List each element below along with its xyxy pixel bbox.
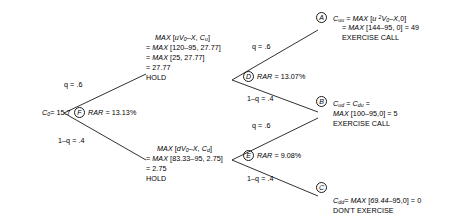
node-d-rar-value: = 13.07%	[274, 72, 305, 81]
upper-mid-line4: = 27.77	[146, 63, 171, 72]
node-c[interactable]: C	[316, 182, 327, 193]
root-rar-value: = 13.13%	[105, 108, 136, 117]
prob-root-up: q = .6	[64, 80, 82, 89]
prob-lower-down: 1–q = .4	[247, 174, 274, 183]
terminal-b-line2: MAX [100–95,0] = 5	[333, 109, 398, 118]
upper-mid-line3: = MAX [25, 27.77]	[146, 53, 205, 62]
lower-mid-line4: HOLD	[146, 174, 166, 183]
upper-mid-line5: HOLD	[146, 73, 166, 82]
node-e[interactable]: E	[243, 150, 254, 161]
node-d[interactable]: D	[243, 71, 254, 82]
root-rar-label: RAR	[88, 108, 103, 117]
edge-lower-down	[232, 160, 318, 196]
node-b[interactable]: B	[316, 96, 327, 107]
root-rar: RAR = 13.13%	[88, 108, 136, 117]
terminal-a-line2: = MAX [144–95, 0] = 49	[342, 23, 419, 32]
node-f[interactable]: F	[74, 107, 85, 118]
edge-upper-down	[232, 80, 318, 112]
prob-upper-down: 1–q = .4	[247, 94, 274, 103]
lower-mid-line2: = MAX [83.33–95, 2.75]	[146, 154, 223, 163]
terminal-a-line3: EXERCISE CALL	[342, 33, 399, 42]
lower-mid-line3: = 2.75	[146, 164, 166, 173]
binomial-tree-diagram: C0= 15.7 F RAR = 13.13% q = .6 1–q = .4 …	[0, 0, 454, 223]
node-d-rar-label: RAR	[257, 72, 272, 81]
node-e-rar-value: = 9.08%	[274, 151, 301, 160]
prob-lower-up: q = .6	[252, 121, 270, 130]
terminal-b-line3: EXERCISE CALL	[333, 119, 390, 128]
root-value: C0= 15.7	[42, 108, 71, 119]
prob-root-down: 1–q = .4	[58, 136, 85, 145]
upper-mid-line2: = MAX [120–95, 27.77]	[146, 43, 221, 52]
node-d-rar: RAR = 13.07%	[257, 72, 305, 81]
node-a[interactable]: A	[316, 12, 327, 23]
node-e-rar: RAR = 9.08%	[257, 151, 301, 160]
root-value-text: = 15.7	[50, 108, 70, 117]
terminal-c-line2: DON'T EXERCISE	[333, 206, 394, 215]
node-e-rar-label: RAR	[257, 151, 272, 160]
prob-upper-up: q = .6	[252, 42, 270, 51]
